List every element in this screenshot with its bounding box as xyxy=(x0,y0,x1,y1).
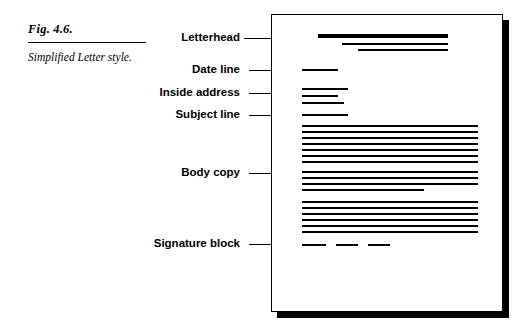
label-inside-address: Inside address xyxy=(120,86,240,98)
body-lines-item xyxy=(302,201,478,203)
body-lines-item xyxy=(302,137,478,139)
label-body-copy: Body copy xyxy=(120,166,240,178)
body-lines-item xyxy=(302,131,478,133)
letterhead-lines-item xyxy=(358,49,448,51)
body-lines-item xyxy=(302,177,478,179)
figure-description: Simplified Letter style. xyxy=(28,50,146,64)
inside-address-lines-item xyxy=(302,88,348,90)
body-lines-item xyxy=(302,171,478,173)
body-lines-item xyxy=(302,125,478,127)
date-lines-item xyxy=(302,69,338,71)
inside-address-lines-item xyxy=(302,102,344,104)
label-letterhead: Letterhead xyxy=(120,31,240,43)
label-signature-block: Signature block xyxy=(120,237,240,249)
signature-lines-item xyxy=(368,244,390,246)
body-lines-item xyxy=(302,183,478,185)
body-lines-item xyxy=(302,213,478,215)
label-date-line: Date line xyxy=(120,63,240,75)
body-lines-item xyxy=(302,225,478,227)
body-lines-item xyxy=(302,155,478,157)
body-lines-item xyxy=(302,143,478,145)
body-lines-item xyxy=(302,189,424,191)
inside-address-lines-item xyxy=(302,95,338,97)
body-lines-item xyxy=(302,161,478,163)
letterhead-lines-item xyxy=(342,43,448,45)
body-lines-item xyxy=(302,149,478,151)
body-lines-item xyxy=(302,231,478,233)
figure-caption: Fig. 4.6. Simplified Letter style. xyxy=(28,22,146,64)
letter-sheet xyxy=(271,14,503,312)
body-lines-item xyxy=(302,207,478,209)
subject-lines-item xyxy=(302,114,348,116)
signature-lines-item xyxy=(302,244,326,246)
label-subject-line: Subject line xyxy=(120,108,240,120)
body-lines-item xyxy=(302,219,478,221)
figure-page: Fig. 4.6. Simplified Letter style. Lette… xyxy=(0,0,530,329)
letterhead-lines-item xyxy=(318,34,448,38)
signature-lines-item xyxy=(336,244,358,246)
